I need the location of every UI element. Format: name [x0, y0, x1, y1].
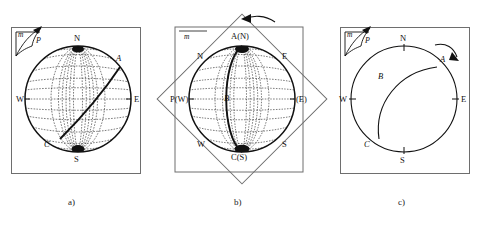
panel-a-label-point-a: A — [116, 54, 121, 63]
panel-b-label-bottom: C(S) — [231, 153, 247, 162]
panel-a-label-north: N — [74, 34, 80, 43]
panel-c-label-point-c: C — [364, 140, 370, 149]
panel-a: N E S W A C m P a) — [0, 0, 160, 228]
panel-a-corner-m: m — [18, 31, 23, 39]
panel-b-label-inner-west: W — [197, 140, 205, 149]
panel-b-label-inner-north: N — [197, 52, 203, 61]
panel-c-label-north: N — [400, 34, 406, 43]
panel-b-label-top: A(N) — [231, 32, 249, 41]
panel-a-label-point-c: C — [44, 140, 50, 149]
panel-c-label-east: E — [461, 95, 466, 104]
panel-b-label-center-b: B — [224, 94, 229, 103]
panel-c-corner-p: P — [365, 37, 370, 45]
panel-b-label-inner-east: E — [282, 52, 287, 61]
rotation-arrow-b — [241, 14, 275, 23]
panel-a-label-west: W — [16, 95, 24, 104]
panel-c-label-point-b: B — [378, 72, 383, 81]
panel-c-label-west: W — [339, 95, 347, 104]
great-circle-trace-c — [378, 67, 437, 139]
panel-a-label-east: E — [134, 95, 139, 104]
panel-b-label-left: P(W) — [170, 95, 188, 104]
panel-a-corner-p: P — [36, 37, 41, 45]
panel-c-label-point-a: A — [440, 55, 445, 64]
panel-a-label-south: S — [74, 155, 79, 164]
panel-b-corner-m: m — [184, 33, 189, 41]
panel-a-caption: a) — [68, 197, 75, 207]
panel-c-caption: c) — [398, 197, 405, 207]
panel-c: N E S W A B C m P c) — [320, 0, 479, 228]
panel-c-label-south: S — [400, 156, 405, 165]
panel-b: A(N) C(S) P(W) (E) N E S W B m b) — [160, 0, 320, 228]
panel-b-caption: b) — [234, 197, 242, 207]
panel-c-corner-m: m — [347, 31, 352, 39]
panel-b-label-inner-south: S — [282, 140, 287, 149]
panel-b-label-right: (E) — [296, 95, 307, 104]
